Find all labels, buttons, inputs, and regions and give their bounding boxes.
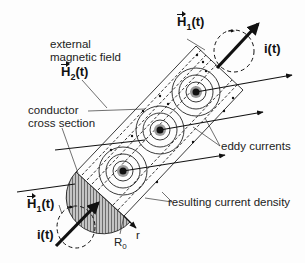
- current-bottom-label: i(t): [37, 227, 54, 242]
- h1-top-label: H1(t): [177, 14, 204, 32]
- eddy-currents-label: eddy currents: [221, 140, 291, 153]
- h1-top-argument: (t): [191, 14, 204, 29]
- diagram-canvas: external magnetic field H2(t) conductor …: [0, 0, 305, 263]
- h1-bottom-label: H1(t): [27, 196, 54, 214]
- h2-label: H2(t): [61, 64, 88, 82]
- h1-top-symbol: H: [177, 14, 186, 29]
- h2-argument: (t): [75, 64, 88, 79]
- h1-bottom-argument: (t): [41, 196, 54, 211]
- current-top-label: i(t): [264, 41, 281, 56]
- conductor-label-line2: cross section: [28, 117, 95, 130]
- radius-label: R0: [114, 236, 127, 253]
- conductor-label-line1: conductor: [28, 104, 79, 117]
- external-field-label-line2: magnetic field: [50, 51, 121, 64]
- external-field-lines: [17, 75, 292, 192]
- h2-symbol: H: [61, 64, 70, 79]
- diagram-graphics: [0, 0, 305, 263]
- h1-bottom-symbol: H: [27, 196, 36, 211]
- external-field-label-line1: external: [50, 38, 91, 51]
- r-axis-label: r: [136, 229, 140, 242]
- current-density-label: resulting current density: [168, 196, 290, 209]
- radius-subscript: 0: [122, 242, 126, 251]
